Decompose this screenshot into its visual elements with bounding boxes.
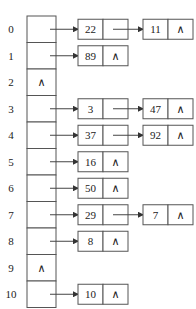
null-pointer-symbol: ∧ (111, 288, 119, 300)
null-pointer-symbol: ∧ (176, 129, 184, 141)
bucket-index-label: 7 (8, 209, 14, 221)
node-value: 50 (85, 182, 97, 194)
node-value: 16 (85, 156, 97, 168)
hash-table-diagram: 02211∧189∧2∧3347∧43792∧516∧650∧7297∧88∧9… (0, 0, 196, 309)
bucket-index-label: 9 (8, 262, 14, 274)
node-value: 3 (88, 103, 94, 115)
node-value: 7 (153, 209, 159, 221)
node-value: 10 (85, 288, 97, 300)
null-pointer-symbol: ∧ (111, 235, 119, 247)
node-value: 22 (85, 23, 96, 35)
bucket-index-label: 4 (8, 129, 14, 141)
null-pointer-symbol: ∧ (37, 262, 45, 274)
node-value: 29 (85, 209, 97, 221)
bucket-index-label: 0 (8, 23, 14, 35)
bucket-index-label: 6 (8, 182, 14, 194)
null-pointer-symbol: ∧ (176, 23, 184, 35)
node-value: 89 (85, 50, 97, 62)
bucket-index-label: 2 (8, 76, 14, 88)
bucket-index-label: 5 (8, 156, 14, 168)
bucket-index-label: 10 (6, 288, 18, 300)
null-pointer-symbol: ∧ (111, 50, 119, 62)
bucket-index-label: 8 (8, 235, 14, 247)
node-value: 8 (88, 235, 94, 247)
bucket-index-label: 3 (8, 103, 14, 115)
null-pointer-symbol: ∧ (37, 76, 45, 88)
node-value: 92 (150, 129, 161, 141)
node-value: 47 (150, 103, 162, 115)
bucket-index-label: 1 (8, 50, 14, 62)
node-value: 37 (85, 129, 97, 141)
null-pointer-symbol: ∧ (176, 209, 184, 221)
null-pointer-symbol: ∧ (111, 182, 119, 194)
null-pointer-symbol: ∧ (111, 156, 119, 168)
node-value: 11 (150, 23, 161, 35)
null-pointer-symbol: ∧ (176, 103, 184, 115)
